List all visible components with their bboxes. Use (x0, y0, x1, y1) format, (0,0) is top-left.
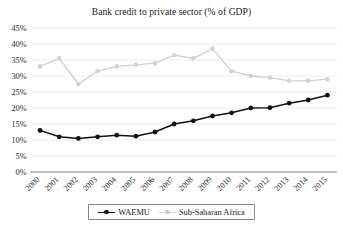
y-axis-tick-labels: 0%5%10%15%20%25%30%35%40%45% (11, 24, 26, 177)
svg-text:2006: 2006 (138, 175, 156, 193)
svg-text:15%: 15% (11, 120, 26, 129)
svg-text:2011: 2011 (234, 175, 252, 193)
chart-legend: WAEMU Sub-Saharan Africa (88, 204, 255, 220)
svg-text:2003: 2003 (81, 175, 99, 193)
svg-text:2000: 2000 (24, 175, 42, 193)
svg-text:0%: 0% (16, 168, 27, 177)
series-waemu (38, 93, 330, 141)
x-axis-tick-labels: 2000200120022003200420052006200720082009… (24, 175, 329, 193)
svg-text:2015: 2015 (311, 175, 329, 193)
legend-marker-ssa-icon (159, 209, 176, 216)
svg-text:30%: 30% (11, 72, 26, 81)
svg-text:10%: 10% (11, 136, 26, 145)
svg-text:25%: 25% (11, 88, 26, 97)
svg-text:35%: 35% (11, 56, 26, 65)
legend-marker-waemu-icon (98, 209, 115, 216)
svg-text:2010: 2010 (215, 175, 233, 193)
chart-plot-area: 0%5%10%15%20%25%30%35%40%45% 20002001200… (0, 0, 343, 231)
gridlines (31, 28, 338, 172)
legend-label-waemu: WAEMU (118, 208, 150, 217)
svg-text:45%: 45% (11, 24, 26, 33)
svg-text:2004: 2004 (100, 175, 118, 193)
legend-label-sub-saharan-africa: Sub-Saharan Africa (179, 208, 245, 217)
svg-text:2013: 2013 (273, 175, 291, 193)
svg-text:2014: 2014 (292, 175, 310, 193)
svg-text:2001: 2001 (43, 175, 61, 193)
svg-text:2002: 2002 (62, 175, 80, 193)
chart-container: Bank credit to private sector (% of GDP)… (0, 0, 343, 231)
legend-item-sub-saharan-africa: Sub-Saharan Africa (159, 208, 245, 217)
svg-text:2008: 2008 (177, 175, 195, 193)
series-sub-saharan-africa (38, 47, 330, 87)
svg-text:20%: 20% (11, 104, 26, 113)
legend-item-waemu: WAEMU (98, 208, 150, 217)
svg-text:2009: 2009 (196, 175, 214, 193)
svg-text:2007: 2007 (158, 175, 176, 193)
svg-text:40%: 40% (11, 40, 26, 49)
svg-text:2005: 2005 (119, 175, 137, 193)
svg-text:2012: 2012 (253, 175, 271, 193)
svg-text:5%: 5% (16, 152, 27, 161)
